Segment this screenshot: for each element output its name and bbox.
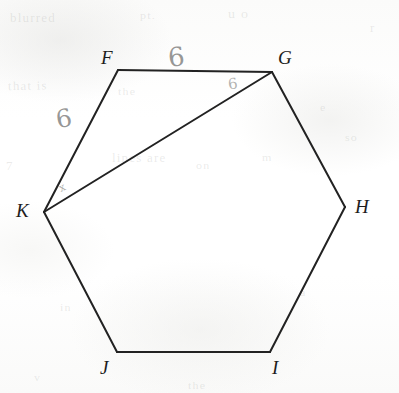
- edge-kg: [44, 72, 272, 212]
- vertex-label-j: J: [100, 358, 108, 377]
- geometry-figure: blurredu opt.that istherlines areeso7onm…: [0, 0, 399, 393]
- side-length-label-fg: 6: [167, 43, 186, 71]
- side-length-label-kg: 6: [227, 76, 239, 92]
- vertex-label-k: K: [16, 201, 29, 220]
- vertex-label-h: H: [355, 197, 369, 216]
- edge-gh: [272, 72, 345, 207]
- vertex-label-i: I: [272, 358, 278, 377]
- vertex-label-g: G: [278, 48, 292, 67]
- vertex-label-f: F: [101, 48, 113, 67]
- edge-fg: [118, 70, 272, 72]
- edge-jk: [44, 212, 117, 352]
- edge-group: [44, 70, 345, 352]
- edge-kf: [44, 70, 118, 212]
- edge-hi: [270, 207, 345, 352]
- hexagon-diagram-svg: [0, 0, 399, 393]
